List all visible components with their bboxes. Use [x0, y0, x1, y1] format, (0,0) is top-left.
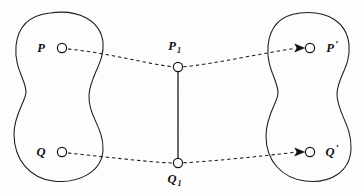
dashed-curve-p1-to-pprime — [183, 49, 294, 67]
left-region-outline — [14, 12, 103, 181]
node-circle-q-prime — [305, 147, 314, 156]
dashed-curve-q-to-q1 — [68, 153, 173, 163]
label-point-p-prime-mark: ′ — [335, 38, 338, 50]
figure-canvas: P Q P 1 Q 1 P ′ Q ′ — [0, 0, 361, 194]
label-point-p: P — [37, 41, 45, 55]
label-point-q-prime: Q — [325, 145, 334, 159]
node-circle-q1 — [173, 158, 182, 167]
node-circle-q — [57, 147, 66, 156]
dashed-curve-q1-to-qprime — [183, 152, 294, 162]
label-point-p-prime: P — [326, 41, 334, 55]
arrowhead-q-prime-icon — [294, 148, 305, 157]
node-circle-p1 — [173, 62, 182, 71]
label-point-q1-subscript: 1 — [177, 179, 181, 188]
dashed-curve-p-to-p1 — [68, 49, 173, 67]
node-circle-p-prime — [305, 43, 314, 52]
arrowhead-p-prime-icon — [294, 44, 305, 53]
node-circle-p — [57, 43, 66, 52]
label-point-p1-subscript: 1 — [177, 46, 181, 55]
label-point-q: Q — [36, 145, 45, 159]
label-point-q1: Q — [167, 172, 176, 186]
label-point-p1: P — [168, 39, 176, 53]
diagram-svg: P Q P 1 Q 1 P ′ Q ′ — [0, 0, 361, 194]
label-point-q-prime-mark: ′ — [336, 142, 339, 154]
